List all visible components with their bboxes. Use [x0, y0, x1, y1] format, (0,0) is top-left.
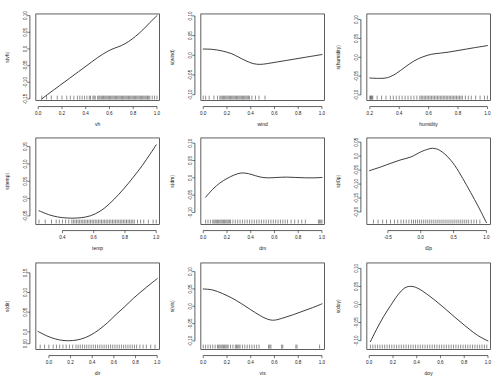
x-tick-label: 0.4 — [248, 360, 255, 365]
y-tick-label: 0.15 — [23, 142, 28, 151]
gam-plot-grid: 0.00.20.40.60.81.0vh-0.15-0.10-0.050.00.… — [0, 0, 500, 377]
y-tick-label: -0.15 — [354, 193, 359, 204]
smooth-curve-wind — [204, 49, 323, 64]
gam-panel-doy: 0.00.20.40.60.81.0doy-0.10-0.050.00.050.… — [333, 253, 498, 377]
x-tick-label: 0.2 — [366, 111, 373, 116]
x-tick-label: 1.0 — [154, 111, 161, 116]
x-tick-label: 1.0 — [319, 360, 326, 365]
x-tick-label: 0.0 — [417, 235, 424, 240]
y-tick-label: 0.10 — [354, 263, 359, 272]
y-tick-label: 0.0 — [354, 153, 359, 160]
plot-frame — [367, 14, 490, 101]
y-axis-title: s(vh) — [5, 51, 10, 62]
x-tick-label: 0.8 — [295, 235, 302, 240]
plot-frame — [201, 263, 324, 350]
y-axis-title: s(temp) — [5, 173, 10, 190]
y-tick-label: -0.10 — [23, 77, 28, 88]
y-tick-label: 0.10 — [354, 15, 359, 24]
plot-frame — [201, 138, 324, 225]
y-tick-label: -0.05 — [23, 211, 28, 222]
y-tick-label: -0.15 — [23, 93, 28, 104]
x-tick-label: 0.6 — [425, 111, 432, 116]
y-tick-label: 0.0 — [188, 175, 193, 182]
gam-panel-dm: 0.00.20.40.60.81.0dm-0.10-0.050.00.050.1… — [167, 128, 332, 252]
y-tick-label: -0.10 — [188, 207, 193, 218]
y-tick-label: 0.05 — [188, 284, 193, 293]
x-tick-label: 0.8 — [295, 111, 302, 116]
y-tick-label: -0.05 — [188, 318, 193, 329]
y-tick-label: -0.10 — [354, 335, 359, 346]
y-tick-label: 0.0 — [354, 301, 359, 308]
x-tick-label: 0.0 — [35, 111, 42, 116]
y-tick-label: 0.00 — [23, 339, 28, 348]
smooth-curve-dir — [38, 279, 157, 341]
x-tick-label: 0.0 — [46, 360, 53, 365]
smooth-curve-dm — [206, 173, 322, 197]
x-tick-label: 0.4 — [89, 360, 96, 365]
y-tick-label: 0.10 — [23, 288, 28, 297]
y-tick-label: 0.0 — [23, 195, 28, 202]
x-tick-label: 0.8 — [122, 235, 129, 240]
y-tick-label: 0.05 — [23, 27, 28, 36]
x-axis-title: temp — [92, 246, 103, 251]
gam-panel-wind: 0.00.20.40.60.81.0wind-0.10-0.050.00.050… — [167, 4, 332, 128]
x-tick-label: 0.2 — [224, 235, 231, 240]
y-tick-label: 0.10 — [188, 267, 193, 276]
y-tick-label: 0.10 — [188, 11, 193, 20]
x-tick-label: 0.6 — [91, 235, 98, 240]
y-tick-label: -0.10 — [188, 335, 193, 346]
gam-panel-temp: 0.40.60.81.0temp-0.050.00.050.100.15s(te… — [2, 128, 167, 252]
smooth-curve-humidity — [369, 46, 487, 79]
x-tick-label: 0.6 — [437, 360, 444, 365]
x-tick-label: 1.0 — [483, 235, 490, 240]
x-tick-label: 0.4 — [59, 235, 66, 240]
y-tick-label: -0.05 — [354, 70, 359, 81]
x-tick-label: 0.8 — [132, 360, 139, 365]
y-tick-label: 0.0 — [23, 328, 28, 335]
x-tick-label: 0.6 — [272, 360, 279, 365]
y-tick-label: 0.05 — [188, 156, 193, 165]
x-tick-label: 0.2 — [67, 360, 74, 365]
x-axis-title: dm — [259, 246, 266, 251]
x-tick-label: 1.0 — [484, 360, 491, 365]
y-tick-label: 0.05 — [23, 177, 28, 186]
y-tick-label: 0.0 — [354, 54, 359, 61]
y-tick-label: -0.10 — [354, 179, 359, 190]
y-tick-label: 0.0 — [23, 45, 28, 52]
y-tick-label: 0.05 — [188, 31, 193, 40]
x-tick-label: 0.5 — [450, 235, 457, 240]
x-tick-label: 0.2 — [224, 111, 231, 116]
y-tick-label: 0.0 — [188, 303, 193, 310]
x-tick-label: 0.0 — [200, 360, 207, 365]
y-tick-label: -0.05 — [354, 165, 359, 176]
y-tick-label: 0.0 — [188, 52, 193, 59]
y-tick-label: 0.05 — [354, 138, 359, 147]
x-tick-label: 0.4 — [248, 111, 255, 116]
y-tick-label: -0.05 — [188, 69, 193, 80]
x-tick-label: 0.6 — [272, 111, 279, 116]
y-tick-label: 0.05 — [354, 281, 359, 290]
gam-panel-dir: 0.00.20.40.60.81.0dir0.000.00.050.100.15… — [2, 253, 167, 377]
x-tick-label: 0.4 — [248, 235, 255, 240]
plot-frame — [367, 263, 490, 350]
y-tick-label: 0.15 — [23, 268, 28, 277]
x-tick-label: 1.0 — [319, 111, 326, 116]
y-axis-title: s(wind) — [170, 49, 175, 65]
x-tick-label: 0.0 — [200, 111, 207, 116]
plot-frame — [36, 263, 159, 350]
x-axis-title: t0p — [425, 246, 432, 251]
gam-panel-humidity: 0.20.40.60.81.0humidity-0.10-0.050.00.05… — [333, 4, 498, 128]
x-axis-title: humidity — [419, 122, 438, 127]
x-tick-label: 0.0 — [366, 360, 373, 365]
y-tick-label: 0.10 — [188, 139, 193, 148]
y-axis-title: s(dm) — [170, 175, 175, 188]
x-tick-label: 1.0 — [484, 111, 491, 116]
y-tick-label: -0.10 — [354, 89, 359, 100]
plot-frame — [367, 138, 490, 225]
x-tick-label: 0.8 — [454, 111, 461, 116]
smooth-curve-t0p — [369, 149, 486, 223]
x-tick-label: 0.4 — [83, 111, 90, 116]
x-tick-label: 0.8 — [130, 111, 137, 116]
x-axis-title: dir — [95, 371, 101, 376]
y-tick-label: 0.10 — [23, 160, 28, 169]
